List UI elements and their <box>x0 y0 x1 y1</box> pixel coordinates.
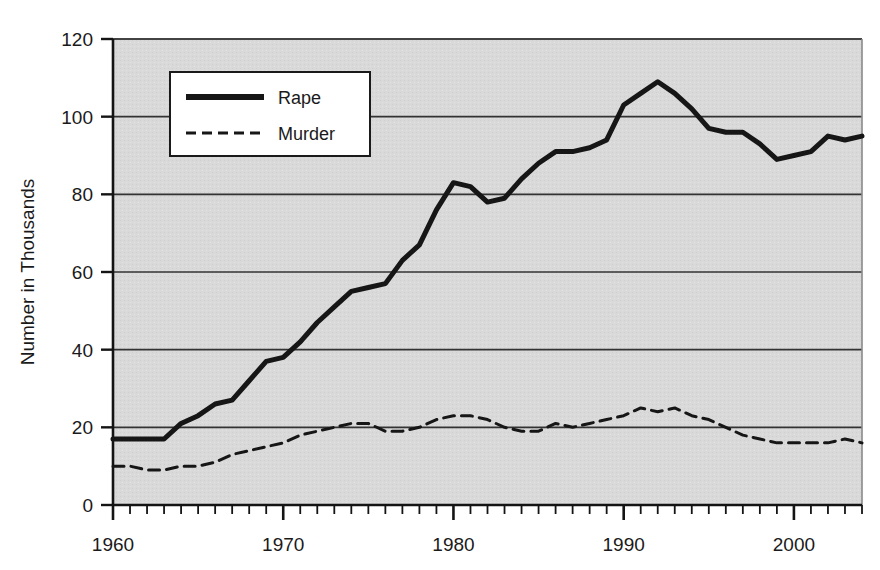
chart-legend: Rape Murder <box>170 72 370 156</box>
x-axis-ticks: 19601970198019902000 <box>92 505 862 555</box>
legend-label-rape: Rape <box>278 88 321 108</box>
x-tick-label: 1990 <box>603 534 645 555</box>
y-axis-title: Number in Thousands <box>17 179 38 366</box>
y-axis-ticks: 020406080100120 <box>61 29 113 516</box>
y-tick-label: 100 <box>61 107 93 128</box>
chart-figure: 020406080100120 19601970198019902000 Num… <box>0 0 880 570</box>
x-tick-label: 1970 <box>262 534 304 555</box>
y-tick-label: 80 <box>72 184 93 205</box>
y-tick-label: 0 <box>82 495 93 516</box>
legend-label-murder: Murder <box>278 124 335 144</box>
y-tick-label: 20 <box>72 417 93 438</box>
x-tick-label: 1980 <box>432 534 474 555</box>
line-chart: 020406080100120 19601970198019902000 Num… <box>0 0 880 570</box>
x-tick-label: 2000 <box>773 534 815 555</box>
y-tick-label: 60 <box>72 262 93 283</box>
y-tick-label: 40 <box>72 340 93 361</box>
y-tick-label: 120 <box>61 29 93 50</box>
x-tick-label: 1960 <box>92 534 134 555</box>
legend-box <box>170 72 370 156</box>
